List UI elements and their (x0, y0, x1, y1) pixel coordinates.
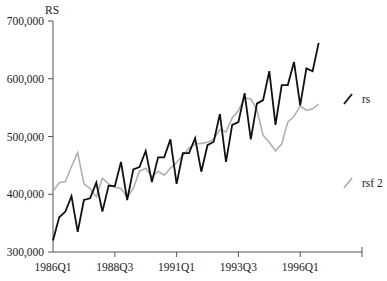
x-axis: 1986Q11988Q31991Q11993Q31996Q1 (34, 247, 362, 273)
legend-item: rs (344, 93, 371, 105)
legend-swatch-icon (344, 178, 352, 188)
x-tick-label: 1986Q1 (34, 261, 71, 273)
line-chart: RS 300,000400,000500,000600,000700,000 1… (0, 0, 387, 281)
y-tick-label: 500,000 (7, 131, 45, 144)
legend: rsrsf 2 (344, 93, 383, 189)
y-axis-title: RS (45, 4, 59, 16)
series-layer (53, 43, 319, 241)
series-line-rs (53, 43, 319, 241)
x-tick-label: 1996Q1 (282, 261, 319, 273)
y-tick-label: 600,000 (7, 73, 45, 86)
chart-canvas: RS 300,000400,000500,000600,000700,000 1… (0, 0, 387, 281)
legend-label: rs (362, 93, 371, 105)
y-tick-label: 700,000 (7, 15, 45, 28)
y-tick-label: 400,000 (7, 188, 45, 201)
legend-swatch-icon (344, 94, 352, 104)
x-tick-label: 1988Q3 (96, 261, 133, 273)
legend-label: rsf 2 (362, 177, 383, 189)
series-line-rsf-2 (53, 98, 319, 197)
x-tick-label: 1993Q3 (220, 261, 257, 273)
y-axis: 300,000400,000500,000600,000700,000 (7, 15, 53, 259)
y-tick-label: 300,000 (7, 246, 45, 259)
x-tick-label: 1991Q1 (158, 261, 195, 273)
legend-item: rsf 2 (344, 177, 383, 189)
